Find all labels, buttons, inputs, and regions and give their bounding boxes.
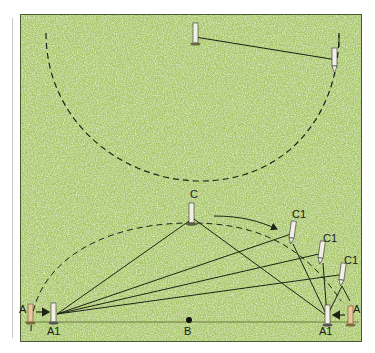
label-c1-mid: C1 xyxy=(323,233,337,244)
label-c: C xyxy=(190,189,198,200)
label-a-left: A xyxy=(19,304,26,315)
label-c1-low: C1 xyxy=(344,255,358,266)
label-a1-right: A1 xyxy=(319,326,332,337)
label-b: B xyxy=(184,326,191,337)
label-c1-top: C1 xyxy=(292,209,306,220)
margin-rule xyxy=(12,18,13,338)
diagram-canvas xyxy=(21,15,362,342)
point-b-marker xyxy=(186,317,192,323)
label-a-right: A xyxy=(353,304,360,315)
lawn-diagram-panel xyxy=(20,14,362,342)
grass-texture xyxy=(21,15,362,342)
label-a1-left: A1 xyxy=(47,326,60,337)
